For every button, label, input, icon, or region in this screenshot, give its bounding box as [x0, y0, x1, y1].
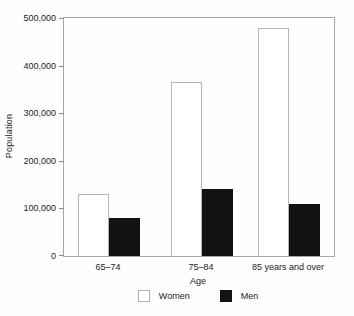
- y-axis-tick: [59, 66, 64, 67]
- y-axis-tick: [59, 113, 64, 114]
- x-axis-title: Age: [190, 276, 206, 286]
- legend: WomenMen: [63, 290, 333, 302]
- y-tick-label: 200,000: [23, 156, 56, 166]
- bar-women-group-0: [78, 194, 109, 256]
- legend-label-women: Women: [159, 291, 190, 301]
- y-axis-tick: [59, 18, 64, 19]
- y-tick-label: 300,000: [23, 108, 56, 118]
- population-by-age-bar-chart: Population 0100,000200,000300,000400,000…: [0, 0, 354, 316]
- legend-label-men: Men: [241, 291, 259, 301]
- y-tick-label: 500,000: [23, 13, 56, 23]
- bar-women-group-1: [171, 82, 202, 256]
- legend-swatch-men: [220, 290, 232, 302]
- plot-area: 0100,000200,000300,000400,000500,000: [63, 17, 335, 257]
- y-tick-label: 0: [51, 251, 56, 261]
- bar-men-group-2: [289, 204, 320, 256]
- legend-item-men: Men: [220, 290, 259, 302]
- x-category-label-1: 75–84: [188, 262, 213, 272]
- y-tick-label: 400,000: [23, 61, 56, 71]
- y-tick-label: 100,000: [23, 203, 56, 213]
- bar-men-group-1: [202, 189, 233, 256]
- bar-women-group-2: [258, 28, 289, 256]
- legend-swatch-women: [138, 290, 150, 302]
- x-category-label-0: 65–74: [95, 262, 120, 272]
- bar-men-group-0: [109, 218, 140, 256]
- legend-item-women: Women: [138, 290, 190, 302]
- y-axis-tick: [59, 255, 64, 256]
- x-category-label-2: 85 years and over: [252, 262, 324, 272]
- y-axis-title: Population: [4, 114, 14, 159]
- y-axis-tick: [59, 208, 64, 209]
- y-axis-tick: [59, 161, 64, 162]
